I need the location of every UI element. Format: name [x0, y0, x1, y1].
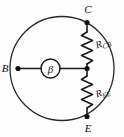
resistor-ree-zigzag [82, 76, 93, 108]
resistor-ree-subscript: EE [100, 89, 112, 100]
transistor-equivalent-circuit-diagram: B C E β RCB REE [0, 0, 124, 137]
terminal-label-collector: C [84, 3, 92, 15]
circuit-svg-canvas: B C E β RCB REE [0, 0, 124, 137]
beta-source-symbol: β [47, 63, 54, 75]
resistor-ree-label-group: REE [93, 84, 113, 102]
node-dot-collector [84, 20, 89, 25]
node-dot-center [84, 66, 89, 71]
node-dot-base [15, 66, 20, 71]
terminal-label-emitter: E [84, 122, 92, 134]
node-dot-emitter [84, 114, 89, 119]
resistor-ree-label: REE [93, 84, 113, 102]
resistor-rcb-subscript: CB [101, 40, 113, 51]
terminal-label-base: B [2, 62, 9, 74]
resistor-rcb-zigzag [82, 32, 93, 64]
